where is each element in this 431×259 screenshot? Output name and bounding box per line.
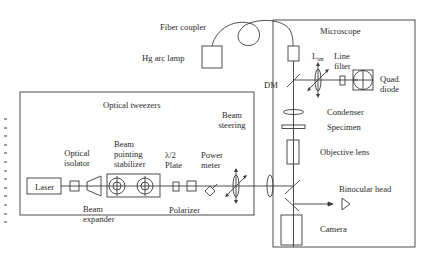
optical-isolator-label: Optical isolator [61,148,93,168]
line-filter [340,76,345,85]
camera-label: Camera [320,224,347,234]
condenser-label: Condenser [327,107,364,117]
beam-expander-label: Beam expander [83,204,115,224]
beam-pointing-stabilizer-label: Beam pointing stabilizer [114,139,146,169]
hg-arc-lamp-label: Hg arc lamp [142,53,184,63]
fiber-cable [212,20,293,46]
half-wave-plate-label: λ/2 Plate [165,150,182,170]
fiber-coupler-label: Fiber coupler [160,22,206,32]
camera [281,215,302,245]
objective-lens-label: Objective lens [320,147,369,157]
quad-diode-label: Quad. diode [380,74,401,94]
objective-lens [287,140,299,164]
line-filter-label: Line filter [334,51,351,71]
microscope-title: Microscope [320,26,361,36]
half-wave-plate [173,182,179,191]
beam-steering-label: Beam steering [214,110,250,130]
specimen-label: Specimen [327,122,361,132]
laser-label: Laser [35,182,54,192]
fiber-coupler-output [288,46,299,61]
optical-tweezers-title: Optical tweezers [103,100,161,110]
binocular-head-label: Binocular head [339,184,391,194]
lim-label: Lim [312,51,324,64]
power-meter-label: Power meter [201,150,223,170]
hg-arc-lamp-box [202,46,222,68]
dm-label: DM [264,80,278,90]
polarizer-label: Polarizer [169,205,200,215]
binocular-head-prism [342,198,350,210]
